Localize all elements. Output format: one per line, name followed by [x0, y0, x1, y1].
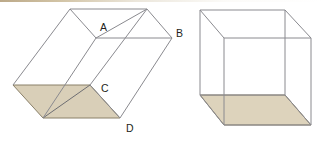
vertex-label-a: A — [100, 21, 107, 33]
right-cube-shaded-base — [200, 95, 311, 125]
right-cube-back-face — [200, 10, 285, 95]
left-prism-edge-front-right — [120, 38, 172, 118]
right-cube-edge-top-left — [200, 10, 224, 38]
vertex-label-d: D — [126, 122, 134, 134]
geometry-figure-canvas: A B C D — [0, 0, 323, 143]
right-cube — [200, 10, 311, 125]
vertex-label-b: B — [176, 27, 183, 39]
left-prism-edge-back-right — [90, 9, 147, 85]
left-prism-edge-back-left — [13, 9, 70, 85]
left-oblique-prism: A B C D — [13, 9, 183, 134]
vertex-label-c: C — [101, 82, 109, 94]
geometry-diagram: A B C D — [0, 0, 323, 143]
right-cube-edge-top-right — [285, 10, 311, 38]
